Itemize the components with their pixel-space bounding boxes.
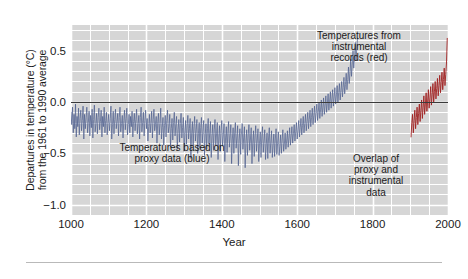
x-axis-label: Year <box>0 236 468 248</box>
y-tick-label: 0.0 <box>32 96 66 108</box>
x-tick-label: 1000 <box>41 218 101 230</box>
x-axis-ticks: 100012001400160018002000 <box>71 218 448 234</box>
y-tick-label: −1.0 <box>32 199 66 211</box>
x-tick-label: 1400 <box>192 218 252 230</box>
x-tick-label: 2000 <box>418 218 468 230</box>
x-tick-label: 1200 <box>116 218 176 230</box>
y-tick-label: −0.5 <box>32 147 66 159</box>
overlap-annotation: Overlap of proxy and instrumental data <box>321 153 431 198</box>
proxy-annotation: Temperatures based on proxy data (blue) <box>97 142 247 164</box>
instrumental-annotation: Temperatures from instrumental records (… <box>299 30 419 64</box>
plot-area: Temperatures based on proxy data (blue) … <box>71 25 448 215</box>
y-tick-label: 0.5 <box>32 45 66 57</box>
footer-rule <box>26 262 442 263</box>
x-tick-label: 1800 <box>343 218 403 230</box>
figure: Departures in temperature (°C) from the … <box>0 0 468 279</box>
x-tick-label: 1600 <box>267 218 327 230</box>
